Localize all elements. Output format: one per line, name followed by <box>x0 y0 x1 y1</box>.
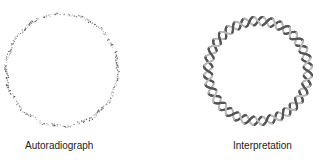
autoradiograph-dot <box>37 121 38 122</box>
autoradiograph-dot <box>115 83 116 84</box>
autoradiograph-dot <box>10 90 11 91</box>
autoradiograph-dot <box>63 126 64 127</box>
autoradiograph-dot <box>117 62 118 63</box>
autoradiograph-dot <box>6 84 7 85</box>
autoradiograph-dot <box>30 22 31 23</box>
autoradiograph-dot <box>49 15 50 16</box>
autoradiograph-dot <box>117 59 118 60</box>
autoradiograph-dot <box>74 15 75 16</box>
autoradiograph-dot <box>109 39 110 40</box>
interpretation-label: Interpretation <box>233 140 292 151</box>
autoradiograph-dot <box>14 96 15 97</box>
autoradiograph-dot <box>103 33 104 34</box>
autoradiograph-dot <box>78 15 79 16</box>
autoradiograph-dot <box>89 120 90 121</box>
autoradiograph-dot <box>13 40 14 41</box>
autoradiograph-dot <box>7 74 8 75</box>
autoradiograph-dot <box>31 20 32 21</box>
autoradiograph-dot <box>6 57 7 58</box>
autoradiograph-dot <box>69 15 70 16</box>
autoradiograph-dot <box>117 72 118 73</box>
autoradiograph-dot <box>30 116 31 117</box>
autoradiograph-dot <box>101 27 102 28</box>
autoradiograph-dot <box>102 32 103 33</box>
autoradiograph-dot <box>116 51 117 52</box>
autoradiograph-dot <box>27 114 28 115</box>
autoradiograph-dot <box>28 115 29 116</box>
autoradiograph-dot <box>60 125 61 126</box>
autoradiograph-dot <box>102 107 103 108</box>
autoradiograph-dot <box>102 108 103 109</box>
autoradiograph-dot <box>81 15 82 16</box>
autoradiograph-dot <box>96 113 97 114</box>
autoradiograph-dot <box>70 126 71 127</box>
autoradiograph-dot <box>104 34 105 35</box>
autoradiograph-dot <box>88 22 89 23</box>
autoradiograph-dot <box>42 124 43 125</box>
autoradiograph-dot <box>114 86 115 87</box>
autoradiograph-dot <box>112 91 113 92</box>
autoradiograph-dot <box>25 28 26 29</box>
autoradiograph-dot <box>92 119 93 120</box>
autoradiograph-dot <box>8 87 9 88</box>
autoradiograph-dot <box>95 114 96 115</box>
autoradiograph-dot <box>25 29 26 30</box>
autoradiograph-dot <box>8 84 9 85</box>
autoradiograph-dot <box>22 111 23 112</box>
autoradiograph-dot <box>111 95 112 96</box>
autoradiograph-dot <box>15 39 16 40</box>
autoradiograph-dot <box>94 115 95 116</box>
autoradiograph-dot <box>46 15 47 16</box>
autoradiograph-dot <box>8 75 9 76</box>
autoradiograph-dot <box>10 93 11 94</box>
autoradiograph-dot <box>26 114 27 115</box>
autoradiograph-dot <box>117 65 118 66</box>
autoradiograph-dot <box>90 21 91 22</box>
autoradiograph-dot <box>70 127 71 128</box>
autoradiograph-dot <box>13 98 14 99</box>
autoradiograph-dot <box>109 102 110 103</box>
autoradiograph-dot <box>77 121 78 122</box>
autoradiograph-dot <box>4 64 5 65</box>
figure <box>0 0 324 163</box>
autoradiograph-dot <box>90 117 91 118</box>
autoradiograph-dot <box>30 114 31 115</box>
autoradiograph-dot <box>116 67 117 68</box>
autoradiograph-dot <box>48 14 49 15</box>
autoradiograph-dot <box>37 18 38 19</box>
autoradiograph-dot <box>11 43 12 44</box>
autoradiograph-dot <box>30 24 31 25</box>
autoradiograph-dot <box>95 24 96 25</box>
autoradiograph-dot <box>111 91 112 92</box>
autoradiograph-dot <box>36 18 37 19</box>
autoradiograph-dot <box>72 14 73 15</box>
autoradiograph-dot <box>117 55 118 56</box>
autoradiograph-dot <box>76 16 77 17</box>
autoradiograph-dot <box>84 121 85 122</box>
autoradiograph-dot <box>13 96 14 97</box>
autoradiograph-dot <box>4 69 5 70</box>
autoradiograph-dot <box>57 125 58 126</box>
autoradiograph-dot <box>35 119 36 120</box>
autoradiograph-dot <box>98 26 99 27</box>
autoradiograph-dot <box>18 105 19 106</box>
autoradiograph-dot <box>30 21 31 22</box>
autoradiograph-dot <box>96 26 97 27</box>
autoradiograph-dot <box>71 16 72 17</box>
autoradiograph-dot <box>115 61 116 62</box>
autoradiograph-dot <box>101 29 102 30</box>
autoradiograph-dot <box>5 59 6 60</box>
autoradiograph-dot <box>74 124 75 125</box>
autoradiograph-dot <box>98 111 99 112</box>
autoradiograph-dot <box>55 13 56 14</box>
autoradiograph-dot <box>8 85 9 86</box>
autoradiograph-dot <box>41 122 42 123</box>
autoradiograph-dot <box>56 126 57 127</box>
autoradiograph-dot <box>118 74 119 75</box>
autoradiograph-dot <box>107 40 108 41</box>
autoradiograph-dot <box>73 16 74 17</box>
autoradiograph-dot <box>112 44 113 45</box>
autoradiograph-dot <box>56 12 57 13</box>
autoradiograph-dot <box>14 41 15 42</box>
autoradiograph-label: Autoradiograph <box>25 140 93 151</box>
